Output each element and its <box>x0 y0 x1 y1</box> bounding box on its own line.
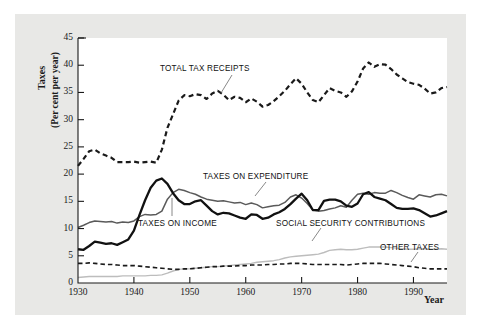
social-security-contributions-label: SOCIAL SECURITY CONTRIBUTIONS <box>276 219 425 228</box>
chart-figure: Taxes (Per cent per year) 05101520253035… <box>0 0 481 332</box>
plot-canvas <box>0 0 481 332</box>
taxes-on-income-label: TAXES ON INCOME <box>138 219 217 228</box>
total-tax-receipts-label: TOTAL TAX RECEIPTS <box>160 64 250 73</box>
taxes-on-expenditure-label: TAXES ON EXPENDITURE <box>203 172 308 181</box>
other-taxes-label: OTHER TAXES <box>380 243 439 252</box>
